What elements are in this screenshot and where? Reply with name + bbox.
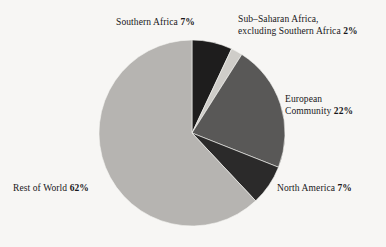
pie-label-sub-saharan-africa: Sub–Saharan Africa, excluding Southern A…	[238, 13, 358, 37]
pie-label-sub-saharan-africa-text: excluding Southern Africa	[238, 26, 343, 36]
pie-label-rest-of-world: Rest of World 62%	[13, 182, 89, 194]
pie-label-rest-of-world-line1: Rest of World 62%	[13, 182, 89, 194]
pie-label-sub-saharan-africa-line1: Sub–Saharan Africa,	[238, 13, 358, 25]
pie-label-north-america-text: North America	[277, 183, 338, 193]
pie-label-southern-africa-line1: Southern Africa 7%	[116, 16, 195, 28]
pie-label-rest-of-world-text: Rest of World	[13, 183, 70, 193]
pie-label-european-community-line1: European	[285, 93, 353, 105]
pie-label-sub-saharan-africa-value: 2%	[343, 26, 357, 36]
pie-label-north-america-value: 7%	[338, 183, 352, 193]
pie-chart-figure: Southern Africa 7% Sub–Saharan Africa, e…	[0, 0, 386, 247]
pie-label-european-community: European Community 22%	[285, 93, 353, 117]
pie-label-southern-africa-value: 7%	[180, 17, 194, 27]
pie-label-european-community-value: 22%	[334, 106, 353, 116]
pie-label-sub-saharan-africa-line2: excluding Southern Africa 2%	[238, 25, 358, 37]
pie-label-rest-of-world-value: 62%	[70, 183, 89, 193]
pie-label-southern-africa: Southern Africa 7%	[116, 16, 195, 28]
pie-label-european-community-text: Community	[285, 106, 334, 116]
pie-label-north-america: North America 7%	[277, 182, 352, 194]
pie-label-north-america-line1: North America 7%	[277, 182, 352, 194]
pie-label-southern-africa-text: Southern Africa	[116, 17, 180, 27]
pie-label-european-community-line2: Community 22%	[285, 105, 353, 117]
